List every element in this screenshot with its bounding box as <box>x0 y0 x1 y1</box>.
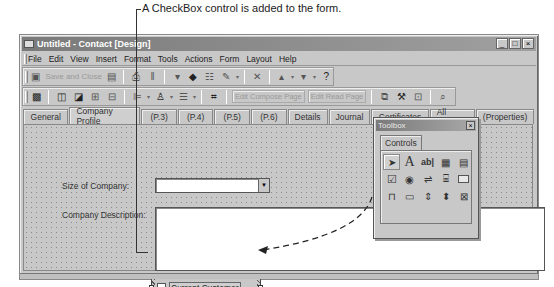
size-of-company-combobox[interactable]: ▼ <box>155 178 270 193</box>
scrollbar-control-icon[interactable]: ⇕ <box>419 188 436 204</box>
save-icon[interactable]: ▣ <box>29 70 42 84</box>
delete-icon[interactable]: ✕ <box>250 70 263 84</box>
tab-p5[interactable]: (P.5) <box>214 109 250 124</box>
current-customer-checkbox[interactable] <box>157 283 166 287</box>
select-objects-icon[interactable]: ➤ <box>383 154 400 170</box>
title-bar[interactable]: Untitled - Contact [Design] _ □ × <box>22 37 536 51</box>
tab-p3[interactable]: (P.3) <box>141 109 177 124</box>
separator <box>123 70 124 84</box>
publish-form-icon[interactable]: ▩ <box>29 90 43 104</box>
toolbox-palette: Toolbox × Controls ➤ A ab| ▦ ▤ ☑ ◉ ⇌ ⌸ ⊓… <box>373 117 479 239</box>
menu-format[interactable]: Format <box>124 54 151 64</box>
minimize-button[interactable]: _ <box>496 38 508 49</box>
edit-read-page-button[interactable]: Edit Read Page <box>308 90 367 103</box>
tab-properties[interactable]: (Properties) <box>476 109 534 124</box>
menu-layout[interactable]: Layout <box>246 54 272 64</box>
tabstrip-control-icon[interactable]: ⊓ <box>383 188 400 204</box>
frame-control-icon[interactable]: ⌸ <box>437 171 454 187</box>
tab-general[interactable]: General <box>23 109 68 124</box>
spinbutton-control-icon[interactable]: ⬍ <box>437 188 454 204</box>
view-code-icon[interactable]: ⌕ <box>436 90 450 104</box>
ungroup-icon[interactable]: ⊟ <box>105 90 119 104</box>
chevron-down-icon[interactable]: ▾ <box>313 73 316 80</box>
chevron-down-icon[interactable]: ▾ <box>193 93 196 100</box>
menu-help[interactable]: Help <box>279 54 296 64</box>
image-control-icon[interactable]: ⊠ <box>455 188 472 204</box>
controls-panel: ➤ A ab| ▦ ▤ ☑ ◉ ⇌ ⌸ ⊓ ▭ ⇕ ⬍ ⊠ <box>380 150 472 224</box>
chevron-down-icon[interactable]: ▾ <box>236 73 239 80</box>
next-item-icon[interactable]: ▾ <box>297 70 310 84</box>
form-icon <box>24 40 34 48</box>
help-icon[interactable]: ? <box>319 70 332 84</box>
checkbox-control-icon[interactable]: ☑ <box>383 171 400 187</box>
menu-insert[interactable]: Insert <box>96 54 117 64</box>
control-toolbox-icon[interactable]: ⚒ <box>394 90 408 104</box>
form-design-toolbar: ▩ ◫ ◪ ⊞ ⊟ ⊫ ▾ ♙ ▾ ☰ ▾ ⌗ Edit Compose Pag… <box>22 87 456 106</box>
edit-compose-page-button[interactable]: Edit Compose Page <box>232 90 305 103</box>
tab-company-profile[interactable]: Company Profile <box>69 107 140 124</box>
commandbutton-control-icon[interactable] <box>455 171 472 187</box>
menu-grip[interactable] <box>24 54 27 64</box>
toolbar-grip[interactable] <box>25 91 28 103</box>
make-same-size-icon[interactable]: ☰ <box>176 90 190 104</box>
menu-form[interactable]: Form <box>220 54 240 64</box>
chevron-down-icon[interactable]: ▾ <box>170 93 173 100</box>
importance-icon[interactable]: ◆ <box>187 70 200 84</box>
callout-caption: A CheckBox control is added to the form. <box>142 2 341 14</box>
menu-file[interactable]: File <box>28 54 42 64</box>
label-control-icon[interactable]: A <box>401 154 418 170</box>
tab-details[interactable]: Details <box>288 109 328 124</box>
optionbutton-control-icon[interactable]: ◉ <box>401 171 418 187</box>
standard-toolbar: ▣ Save and Close ▤ ⎙ ‖ ▾ ◆ ☷ ✎ ▾ ✕ ▴ ▾ ▾… <box>22 67 334 86</box>
bring-to-front-icon[interactable]: ◫ <box>54 90 68 104</box>
chevron-down-icon[interactable]: ▾ <box>147 93 150 100</box>
togglebutton-control-icon[interactable]: ⇌ <box>419 171 436 187</box>
center-icon[interactable]: ♙ <box>153 90 167 104</box>
close-icon[interactable]: × <box>466 121 475 130</box>
maximize-button[interactable]: □ <box>509 38 521 49</box>
previous-item-icon[interactable]: ▴ <box>275 70 288 84</box>
combobox-control-icon[interactable]: ▦ <box>437 154 454 170</box>
company-description-textbox[interactable] <box>155 207 545 271</box>
tab-p4[interactable]: (P.4) <box>178 109 214 124</box>
flag-icon[interactable]: ▾ <box>170 70 183 84</box>
separator <box>244 70 245 84</box>
options-icon[interactable]: ✎ <box>220 70 233 84</box>
close-button[interactable]: × <box>522 38 534 49</box>
tab-p6[interactable]: (P.6) <box>251 109 287 124</box>
separator <box>124 90 125 104</box>
group-icon[interactable]: ⊞ <box>88 90 102 104</box>
separator <box>269 70 270 84</box>
menu-edit[interactable]: Edit <box>49 54 64 64</box>
save-disk-icon[interactable]: ▤ <box>105 70 118 84</box>
current-customer-label: Current Customer <box>169 282 241 287</box>
chevron-down-icon[interactable]: ▼ <box>258 179 269 192</box>
company-description-label: Company Description: <box>62 210 146 220</box>
chevron-down-icon[interactable]: ▾ <box>291 73 294 80</box>
tab-controls[interactable]: Controls <box>380 135 422 151</box>
textbox-control-icon[interactable]: ab| <box>419 154 436 170</box>
attach-icon[interactable]: ‖ <box>146 70 159 84</box>
send-to-back-icon[interactable]: ◪ <box>71 90 85 104</box>
properties-icon[interactable]: ⊡ <box>411 90 425 104</box>
align-left-icon[interactable]: ⊫ <box>130 90 144 104</box>
menu-tools[interactable]: Tools <box>158 54 178 64</box>
menu-view[interactable]: View <box>70 54 88 64</box>
toolbox-title-bar[interactable]: Toolbox × <box>376 120 476 131</box>
separator <box>430 90 431 104</box>
window-title: Untitled - Contact [Design] <box>37 39 151 49</box>
save-and-close-button[interactable]: Save and Close <box>45 72 101 81</box>
categories-icon[interactable]: ☷ <box>203 70 216 84</box>
toolbar-grip[interactable] <box>25 71 28 83</box>
snap-to-grid-icon[interactable]: ⌗ <box>207 90 221 104</box>
callout-leader-foot <box>136 252 148 253</box>
menu-actions[interactable]: Actions <box>185 54 213 64</box>
outlook-form-designer-window: Untitled - Contact [Design] _ □ × File E… <box>19 34 539 280</box>
tab-journal[interactable]: Journal <box>329 109 371 124</box>
separator <box>201 90 202 104</box>
separator <box>226 90 227 104</box>
window-bottom-edge <box>20 273 538 279</box>
listbox-control-icon[interactable]: ▤ <box>455 154 472 170</box>
field-chooser-icon[interactable]: ⧉ <box>377 90 391 104</box>
multipage-control-icon[interactable]: ▭ <box>401 188 418 204</box>
